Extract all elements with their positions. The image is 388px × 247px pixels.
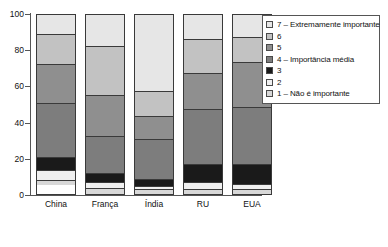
- x-axis-category-label: França: [77, 199, 133, 209]
- legend-swatch-icon: [266, 79, 273, 86]
- legend-item-label: 1 – Não é importante: [277, 89, 350, 98]
- bar-china[interactable]: [36, 14, 76, 195]
- chart-figure: 020406080100 7 – Extremamente importante…: [0, 0, 388, 247]
- bar-segment-4: [184, 110, 222, 165]
- bar-segment-1: [184, 190, 222, 194]
- y-axis-tick: [25, 50, 30, 51]
- bar-segment-4: [37, 104, 75, 158]
- y-axis-tick-label: 40: [2, 119, 24, 127]
- bar-segment-6: [86, 47, 124, 95]
- bar-segment-6: [135, 92, 173, 117]
- y-axis-tick: [25, 14, 30, 15]
- bar-segment-6: [184, 40, 222, 74]
- y-axis-tick-label: 20: [2, 155, 24, 163]
- legend-swatch-icon: [266, 21, 273, 28]
- legend-item-label: 2: [277, 78, 281, 87]
- legend-swatch-icon: [266, 44, 273, 51]
- legend-item[interactable]: 2: [266, 77, 376, 89]
- legend-item-label: 6: [277, 32, 281, 41]
- legend-swatch-icon: [266, 33, 273, 40]
- bar-segment-3: [233, 165, 271, 185]
- legend-swatch-icon: [266, 90, 273, 97]
- y-axis-labels: 020406080100: [0, 0, 24, 247]
- y-axis-tick: [25, 195, 30, 196]
- y-axis-tick-label: 60: [2, 82, 24, 90]
- bar-ru[interactable]: [183, 14, 223, 195]
- bar-segment-5: [86, 96, 124, 137]
- x-axis-line: [30, 195, 262, 196]
- bar-segment-3: [37, 158, 75, 171]
- bar-segment-7: [184, 15, 222, 40]
- bar-índia[interactable]: [134, 14, 174, 195]
- legend-item[interactable]: 4 – Importância média: [266, 54, 376, 66]
- bar-segment-4: [135, 140, 173, 179]
- y-axis-tick-label: 80: [2, 46, 24, 54]
- y-axis-tick-label: 100: [2, 10, 24, 18]
- chart-legend: 7 – Extremamente importante654 – Importâ…: [262, 15, 380, 104]
- legend-swatch-icon: [266, 56, 273, 63]
- y-axis-tick: [25, 123, 30, 124]
- legend-item[interactable]: 6: [266, 31, 376, 43]
- bar-segment-1: [135, 190, 173, 194]
- y-axis-tick: [25, 159, 30, 160]
- legend-swatch-icon: [266, 67, 273, 74]
- legend-item-label: 5: [277, 43, 281, 52]
- bar-segment-1: [233, 190, 271, 194]
- legend-item[interactable]: 3: [266, 65, 376, 77]
- plot-area: [31, 14, 230, 195]
- legend-item[interactable]: 7 – Extremamente importante: [266, 19, 376, 31]
- legend-item[interactable]: 5: [266, 42, 376, 54]
- bar-segment-5: [135, 117, 173, 140]
- bar-segment-1: [37, 181, 75, 185]
- bar-segment-2: [184, 183, 222, 190]
- bar-segment-3: [184, 165, 222, 183]
- bar-segment-4: [86, 137, 124, 175]
- bar-segment-7: [86, 15, 124, 47]
- x-axis-category-label: EUA: [224, 199, 280, 209]
- bar-segment-2: [37, 171, 75, 182]
- y-axis-tick: [25, 86, 30, 87]
- y-axis-tick-label: 0: [2, 191, 24, 199]
- legend-item-label: 7 – Extremamente importante: [277, 20, 380, 29]
- legend-item[interactable]: 1 – Não é importante: [266, 88, 376, 100]
- bar-frança[interactable]: [85, 14, 125, 195]
- bar-segment-5: [184, 74, 222, 110]
- x-axis-category-label: Índia: [126, 199, 182, 209]
- bar-segment-5: [37, 65, 75, 104]
- bar-segment-7: [135, 15, 173, 92]
- x-axis-category-label: RU: [175, 199, 231, 209]
- x-axis-category-label: China: [28, 199, 84, 209]
- bar-segment-3: [86, 174, 124, 183]
- bar-segment-1: [86, 189, 124, 194]
- bar-segment-7: [37, 15, 75, 35]
- bar-segment-6: [37, 35, 75, 65]
- legend-item-label: 4 – Importância média: [277, 55, 354, 64]
- legend-item-label: 3: [277, 66, 281, 75]
- bar-segment-3: [135, 180, 173, 187]
- bar-segment-4: [233, 108, 271, 165]
